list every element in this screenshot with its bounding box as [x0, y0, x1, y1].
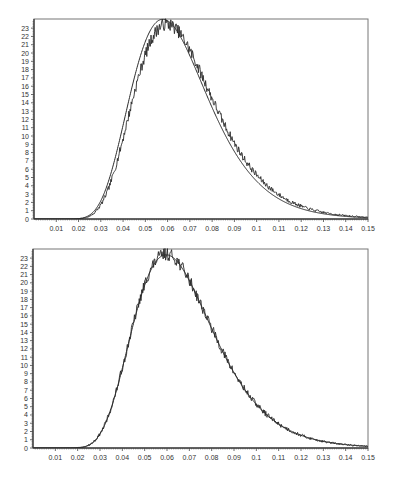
y-tick-label: 1 [24, 436, 28, 443]
x-tick-label: 0.1 [251, 454, 261, 461]
top-chart-svg: 012345678910111213141516171819202122230.… [0, 0, 393, 240]
x-tick-label: 0.01 [49, 454, 63, 461]
top-density-chart: 012345678910111213141516171819202122230.… [0, 0, 393, 240]
bottom-chart-svg: 012345678910111213141516171819202122230.… [0, 230, 393, 480]
plot-frame [33, 249, 368, 448]
y-tick-label: 0 [25, 216, 29, 223]
y-tick-label: 7 [25, 157, 29, 164]
y-tick-label: 3 [24, 420, 28, 427]
y-tick-label: 17 [21, 74, 29, 81]
x-tick-label: 0.05 [138, 454, 152, 461]
y-tick-label: 22 [20, 263, 28, 270]
y-tick-label: 15 [20, 321, 28, 328]
fitted-density-curve [34, 19, 368, 219]
x-tick-label: 0.14 [339, 454, 353, 461]
empirical-density-curve [34, 18, 368, 219]
y-tick-label: 18 [20, 296, 28, 303]
y-tick-label: 14 [21, 99, 29, 106]
bottom-density-chart: 012345678910111213141516171819202122230.… [0, 230, 393, 480]
y-tick-label: 4 [25, 182, 29, 189]
y-tick-label: 2 [24, 428, 28, 435]
y-tick-label: 2 [25, 199, 29, 206]
y-tick-label: 21 [21, 41, 29, 48]
y-tick-label: 1 [25, 207, 29, 214]
y-tick-label: 7 [24, 387, 28, 394]
y-tick-label: 10 [20, 362, 28, 369]
y-tick-label: 10 [21, 133, 29, 140]
y-tick-label: 16 [21, 83, 29, 90]
y-tick-label: 9 [24, 370, 28, 377]
fitted-density-curve [33, 255, 368, 448]
plot-frame [34, 19, 368, 219]
y-tick-label: 17 [20, 304, 28, 311]
y-tick-label: 15 [21, 91, 29, 98]
y-tick-label: 9 [25, 141, 29, 148]
y-tick-label: 11 [22, 124, 29, 131]
y-tick-label: 0 [24, 445, 28, 452]
x-tick-label: 0.04 [116, 454, 130, 461]
y-tick-label: 6 [25, 166, 29, 173]
y-tick-label: 19 [20, 288, 28, 295]
x-tick-label: 0.08 [205, 454, 219, 461]
y-tick-label: 8 [24, 378, 28, 385]
x-tick-label: 0.06 [160, 454, 174, 461]
y-tick-label: 20 [20, 279, 28, 286]
y-tick-label: 11 [21, 354, 28, 361]
y-tick-label: 12 [21, 116, 29, 123]
y-tick-label: 4 [24, 411, 28, 418]
x-tick-label: 0.12 [294, 454, 308, 461]
y-tick-label: 5 [25, 174, 29, 181]
x-tick-label: 0.07 [183, 454, 197, 461]
y-tick-label: 3 [25, 191, 29, 198]
y-tick-label: 20 [21, 50, 29, 57]
y-tick-label: 14 [20, 329, 28, 336]
y-tick-label: 23 [20, 255, 28, 262]
y-tick-label: 13 [21, 108, 29, 115]
x-tick-label: 0.02 [71, 454, 85, 461]
y-tick-label: 8 [25, 149, 29, 156]
y-tick-label: 5 [24, 403, 28, 410]
x-tick-label: 0.13 [317, 454, 331, 461]
y-tick-label: 6 [24, 395, 28, 402]
y-tick-label: 22 [21, 33, 29, 40]
x-tick-label: 0.03 [93, 454, 107, 461]
y-tick-label: 21 [20, 271, 28, 278]
x-tick-label: 0.11 [272, 454, 285, 461]
y-tick-label: 19 [21, 58, 29, 65]
empirical-density-curve [33, 248, 368, 448]
y-tick-label: 18 [21, 66, 29, 73]
y-tick-label: 12 [20, 345, 28, 352]
y-tick-label: 13 [20, 337, 28, 344]
x-tick-label: 0.09 [227, 454, 241, 461]
x-tick-label: 0.15 [361, 454, 375, 461]
y-tick-label: 23 [21, 25, 29, 32]
y-tick-label: 16 [20, 312, 28, 319]
